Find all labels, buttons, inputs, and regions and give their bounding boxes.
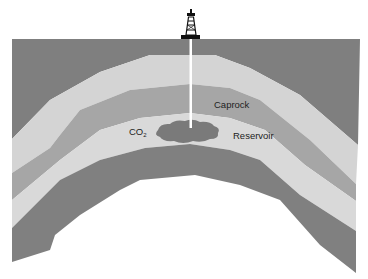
drilling-rig-icon: [181, 9, 200, 39]
reservoir-label: Reservoir: [233, 130, 274, 141]
caprock-label: Caprock: [214, 99, 250, 110]
anticline-cross-section: Caprock Reservoir CO2: [0, 0, 368, 279]
injection-well: [190, 38, 193, 128]
